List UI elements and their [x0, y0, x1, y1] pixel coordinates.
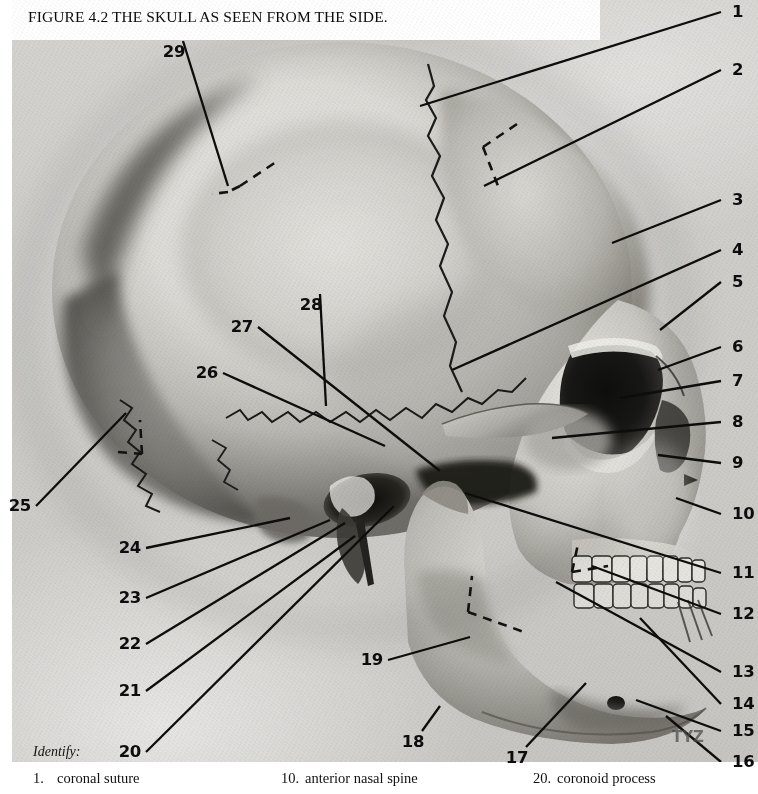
callout-number-17: 17 — [506, 750, 528, 767]
callout-number-2: 2 — [732, 62, 743, 79]
callout-number-1: 1 — [732, 4, 743, 21]
caption-term: coronoid process — [557, 770, 656, 786]
callout-number-5: 5 — [732, 274, 743, 291]
artist-initials-watermark: TYZ — [672, 728, 704, 746]
caption-number: 10. — [281, 770, 305, 787]
callout-number-12: 12 — [732, 606, 754, 623]
caption-number: 1. — [33, 770, 57, 787]
callout-number-13: 13 — [732, 664, 754, 681]
caption-term: anterior nasal spine — [305, 770, 418, 786]
caption-item-1: 1.coronal suture — [33, 770, 140, 787]
callout-number-28: 28 — [300, 297, 322, 314]
callout-number-23: 23 — [119, 590, 141, 607]
callout-number-8: 8 — [732, 414, 743, 431]
callout-number-15: 15 — [732, 723, 754, 740]
callout-number-29: 29 — [163, 44, 185, 61]
callout-number-22: 22 — [119, 636, 141, 653]
caption-item-20: 20.coronoid process — [533, 770, 656, 787]
callout-number-27: 27 — [231, 319, 253, 336]
identify-heading: Identify: — [33, 744, 80, 760]
callout-number-20: 20 — [119, 744, 141, 761]
figure-page: TYZ FIGURE 4.2 THE SKULL AS SEEN FROM TH… — [0, 0, 758, 794]
callout-number-21: 21 — [119, 683, 141, 700]
caption-number: 20. — [533, 770, 557, 787]
callout-number-19: 19 — [361, 652, 383, 669]
callout-number-24: 24 — [119, 540, 141, 557]
callout-number-7: 7 — [732, 373, 743, 390]
callout-number-6: 6 — [732, 339, 743, 356]
callout-number-10: 10 — [732, 506, 754, 523]
caption-item-10: 10.anterior nasal spine — [281, 770, 418, 787]
caption-row: 1.coronal suture 10.anterior nasal spine… — [0, 770, 758, 794]
callout-number-25: 25 — [9, 498, 31, 515]
callout-number-16: 16 — [732, 754, 754, 771]
callout-number-3: 3 — [732, 192, 743, 209]
caption-term: coronal suture — [57, 770, 140, 786]
callout-number-9: 9 — [732, 455, 743, 472]
callout-number-26: 26 — [196, 365, 218, 382]
callout-number-18: 18 — [402, 734, 424, 751]
callout-number-4: 4 — [732, 242, 743, 259]
callout-number-14: 14 — [732, 696, 754, 713]
figure-title: FIGURE 4.2 THE SKULL AS SEEN FROM THE SI… — [28, 8, 388, 26]
callout-number-11: 11 — [732, 565, 754, 582]
